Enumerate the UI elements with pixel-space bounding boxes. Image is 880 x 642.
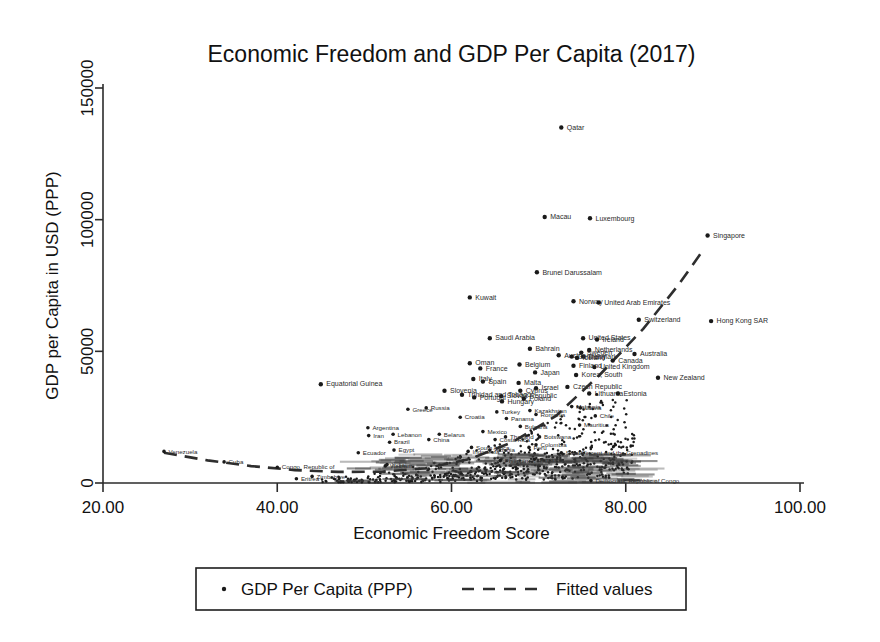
data-point	[385, 463, 389, 467]
data-point	[391, 433, 395, 437]
data-point-label: Bulgaria	[525, 423, 548, 430]
data-point-label: Hungary	[508, 398, 535, 406]
data-point-label: Hong Kong SAR	[717, 317, 768, 325]
data-point	[557, 353, 561, 357]
data-point	[488, 336, 492, 340]
data-point-label: Brazil	[394, 438, 409, 445]
data-point	[709, 319, 713, 323]
data-point	[495, 410, 499, 414]
data-point-label: Mexico	[487, 428, 507, 435]
data-point	[595, 337, 599, 341]
data-point-label: Romania	[541, 411, 566, 418]
data-point-label: Argentina	[372, 424, 399, 431]
data-point	[458, 415, 462, 419]
data-point-label: Democratic Republic of Congo	[595, 477, 679, 484]
data-point-label: United Kingdom	[600, 363, 650, 371]
chart-title: Economic Freedom and GDP Per Capita (201…	[208, 41, 696, 67]
data-point	[571, 299, 575, 303]
data-point-label: Russia	[431, 404, 450, 411]
y-tick-label: 100000	[78, 191, 97, 248]
data-point-label: Qatar	[567, 124, 585, 132]
data-point-label: Eritrea	[301, 475, 320, 482]
data-point	[481, 430, 485, 434]
data-point	[442, 389, 446, 393]
data-point	[406, 408, 410, 412]
data-point	[534, 413, 538, 417]
data-point-label: Equatorial Guinea	[326, 380, 382, 388]
data-point	[222, 460, 226, 464]
data-point-label: Malta	[524, 379, 541, 386]
data-point	[588, 216, 592, 220]
data-point	[611, 358, 615, 362]
data-point-label: Korea, South	[582, 371, 623, 378]
data-point-label: Cuba	[229, 458, 244, 465]
data-point-label: Estonia	[623, 390, 646, 397]
data-point	[367, 434, 371, 438]
data-point-label: Brunei Darussalam	[542, 269, 602, 276]
data-point-label: Croatia	[465, 413, 486, 420]
data-point	[587, 391, 591, 395]
data-point-label: France	[486, 365, 508, 372]
data-point	[528, 409, 532, 413]
data-point	[517, 362, 521, 366]
data-point	[637, 318, 641, 322]
data-point	[500, 399, 504, 403]
data-point-label: Iceland	[583, 354, 606, 361]
y-tick-label: 50000	[78, 328, 97, 375]
data-point	[575, 356, 579, 360]
data-point-label: India	[392, 461, 406, 468]
data-point-label: Peru	[534, 444, 548, 451]
data-point	[543, 215, 547, 219]
data-point	[499, 459, 503, 463]
data-point	[472, 395, 476, 399]
x-tick-label: 60.00	[430, 498, 473, 517]
data-point	[570, 354, 574, 358]
data-point-label: Venezuela	[169, 448, 198, 455]
legend-label-fitted: Fitted values	[556, 580, 652, 599]
y-axis-title: GDP per Capita in USD (PPP)	[43, 171, 62, 399]
data-point	[468, 295, 472, 299]
data-point	[528, 347, 532, 351]
data-point	[565, 385, 569, 389]
data-point	[538, 435, 542, 439]
data-point	[357, 451, 361, 455]
data-point	[533, 370, 537, 374]
data-point-label: Japan	[541, 369, 560, 377]
data-point	[466, 450, 470, 454]
data-point-label: Saudi Arabia	[495, 334, 535, 341]
data-point	[366, 426, 370, 430]
data-point	[589, 479, 593, 483]
data-point	[527, 446, 531, 450]
x-tick-label: 20.00	[82, 498, 125, 517]
data-point-label: Mauritius	[584, 421, 609, 428]
x-axis-title: Economic Freedom Score	[353, 524, 550, 543]
data-point-label: Saint Vincent and the Grenadines	[566, 449, 658, 456]
data-point	[594, 414, 598, 418]
data-point-label: New Zealand	[664, 374, 705, 381]
data-point	[574, 373, 578, 377]
data-point-label: Switzerland	[644, 316, 680, 323]
data-point	[578, 423, 582, 427]
data-point	[560, 451, 564, 455]
data-point-label: Iran	[373, 432, 384, 439]
chart-container: Economic Freedom and GDP Per Capita (201…	[0, 0, 880, 642]
data-point	[579, 406, 583, 410]
data-point	[616, 391, 620, 395]
data-point-label: Botswana	[544, 433, 572, 440]
data-point	[162, 450, 166, 454]
scatter-plot: Economic Freedom and GDP Per Capita (201…	[0, 0, 880, 642]
data-point-label: Lebanon	[398, 431, 423, 438]
data-point	[471, 377, 475, 381]
data-point	[460, 393, 464, 397]
data-point	[493, 438, 497, 442]
data-point	[427, 438, 431, 442]
data-point	[319, 382, 323, 386]
data-point	[656, 376, 660, 380]
legend-label-points: GDP Per Capita (PPP)	[241, 580, 413, 599]
data-point	[535, 270, 539, 274]
data-point	[571, 364, 575, 368]
data-point-label: Singapore	[713, 232, 745, 240]
data-point-label: Finland	[579, 362, 602, 369]
data-point-label: Latvia	[585, 404, 602, 411]
data-point	[388, 440, 392, 444]
